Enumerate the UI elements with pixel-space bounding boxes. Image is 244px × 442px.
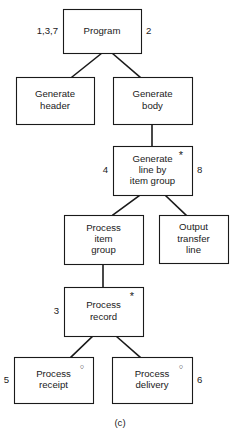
node-label-process-record: Process [86,299,121,310]
node-label-process-item-group: group [91,244,116,255]
node-process-item-group[interactable]: Processitemgroup [65,216,144,265]
node-label-process-receipt: receipt [39,379,68,390]
node-label-output-transfer-line: transfer [177,233,210,244]
structure-diagram: Program1,3,72GenerateheaderGeneratebodyG… [0,0,244,442]
connector-program-to-generate-header [72,53,102,77]
node-generate-body[interactable]: Generatebody [114,78,193,125]
node-label-process-delivery: delivery [135,379,168,390]
node-left-label-program: 1,3,7 [37,25,58,36]
connector-generate-line-to-output-transfer-line [165,195,186,215]
node-generate-line-by-item-group[interactable]: Generateline byitem group*48 [103,147,203,196]
node-right-label-process-delivery: 6 [197,374,202,385]
node-label-output-transfer-line: line [186,244,201,255]
node-right-label-generate-line-by-item-group: 8 [197,164,202,175]
node-label-generate-header: header [40,100,71,111]
connector-generate-line-to-process-item-group [113,195,140,215]
connector-program-to-generate-body [112,53,140,77]
node-marker-iteration-process-record: * [130,290,135,302]
node-label-process-delivery: Process [135,368,170,379]
node-marker-iteration-generate-line-by-item-group: * [179,149,184,161]
node-label-process-item-group: Process [86,222,121,233]
connector-process-record-to-process-delivery [116,336,140,357]
node-marker-selection-process-receipt: ○ [80,362,84,371]
node-generate-header[interactable]: Generateheader [17,78,95,125]
node-left-label-process-receipt: 5 [4,374,9,385]
node-process-delivery[interactable]: Processdelivery○6 [113,358,203,404]
node-label-output-transfer-line: Output [179,221,208,232]
node-program[interactable]: Program1,3,72 [37,10,152,54]
node-marker-selection-process-delivery: ○ [179,362,183,371]
node-left-label-process-record: 3 [54,305,59,316]
node-label-generate-line-by-item-group: item group [130,175,175,186]
node-right-label-program: 2 [146,25,151,36]
node-label-program: Program [84,25,121,36]
diagram-canvas: Program1,3,72GenerateheaderGeneratebodyG… [0,0,244,442]
node-label-generate-line-by-item-group: line by [139,164,167,175]
node-layer: Program1,3,72GenerateheaderGeneratebodyG… [4,10,229,404]
node-label-process-record: record [90,311,117,322]
node-label-generate-line-by-item-group: Generate [132,153,172,164]
node-process-record[interactable]: Processrecord*3 [54,288,144,337]
node-label-process-receipt: Process [36,368,71,379]
connector-process-record-to-process-receipt [71,336,93,357]
node-process-receipt[interactable]: Processreceipt○5 [4,358,94,404]
node-label-process-item-group: item [94,233,112,244]
node-label-generate-header: Generate [35,88,75,99]
node-label-generate-body: Generate [132,88,172,99]
node-label-generate-body: body [142,100,163,111]
node-output-transfer-line[interactable]: Outputtransferline [160,216,229,264]
figure-caption: (c) [114,417,125,428]
node-left-label-generate-line-by-item-group: 4 [103,164,109,175]
